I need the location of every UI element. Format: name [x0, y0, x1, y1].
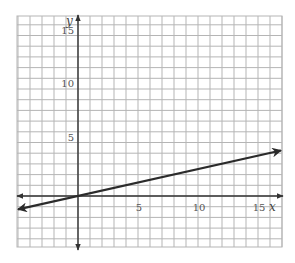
- y-tick-label: 5: [68, 132, 74, 143]
- grid: [17, 16, 282, 247]
- x-tick-label: 10: [193, 202, 206, 213]
- x-tick-label: 15: [253, 202, 266, 213]
- x-axis-label: x: [269, 200, 276, 214]
- tick-labels: 5101551015: [61, 25, 265, 214]
- x-tick-label: 5: [136, 202, 142, 213]
- y-tick-label: 10: [61, 78, 74, 89]
- coordinate-plane: 5101551015 x y: [0, 0, 295, 263]
- y-axis-label: y: [65, 14, 73, 28]
